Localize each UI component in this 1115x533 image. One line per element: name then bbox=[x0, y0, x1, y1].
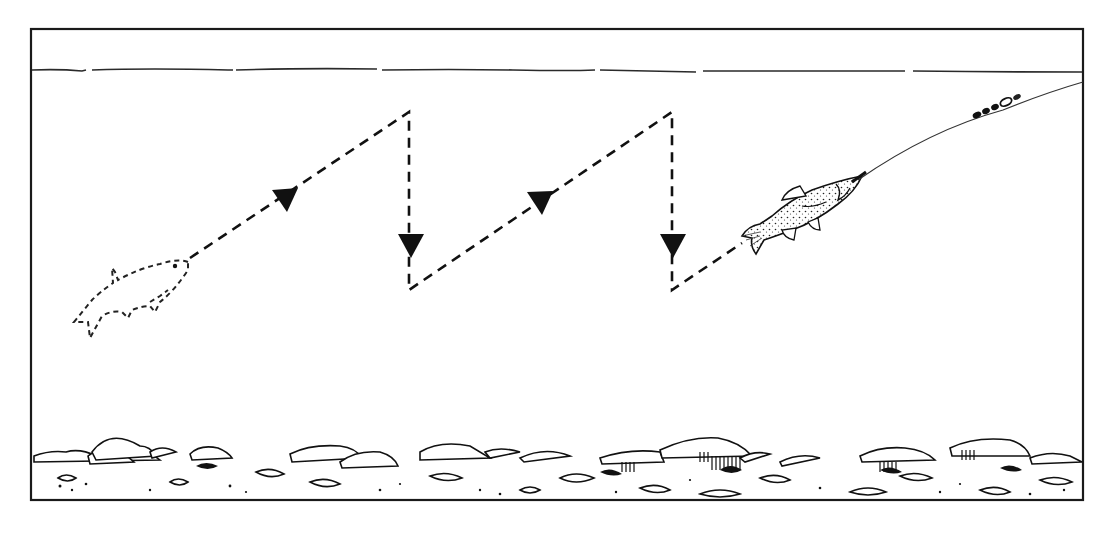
retrieve-diagram bbox=[0, 0, 1115, 533]
retrieve-path bbox=[190, 112, 742, 290]
swivel bbox=[999, 96, 1013, 107]
arrow-down-icon bbox=[660, 234, 686, 258]
fishing-line bbox=[852, 82, 1083, 182]
arrow-down-icon bbox=[398, 234, 424, 258]
riverbed-stones bbox=[34, 438, 1082, 497]
arrow-up-right-icon bbox=[527, 191, 553, 215]
baitfish-on-hook bbox=[742, 176, 862, 254]
start-fish-outline bbox=[74, 260, 188, 338]
swivel-eye bbox=[1012, 93, 1021, 101]
water-surface-line bbox=[32, 69, 1082, 72]
start-fish-eye bbox=[173, 264, 177, 268]
path-arrows bbox=[272, 188, 686, 258]
split-shot-3 bbox=[990, 103, 1000, 112]
